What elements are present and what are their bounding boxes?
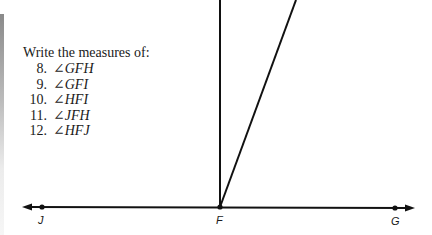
label-j: J [38, 214, 44, 226]
arrowhead-right-icon [405, 205, 415, 212]
point-g [392, 205, 397, 210]
arrowhead-left-icon [22, 204, 32, 211]
label-g: G [391, 215, 400, 227]
ray-fi [220, 0, 296, 207]
label-f: F [216, 214, 223, 226]
geometry-figure [0, 0, 432, 235]
point-j [39, 204, 44, 209]
point-f [217, 204, 222, 209]
